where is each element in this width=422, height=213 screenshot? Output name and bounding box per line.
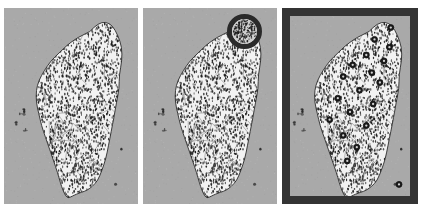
highlight-circle-northern-taiwan[interactable] (227, 14, 262, 49)
panel-a-map-canvas (4, 8, 138, 204)
map-panel-b[interactable] (143, 8, 277, 204)
map-panel-c[interactable] (282, 8, 418, 204)
panel-c-map-canvas (282, 8, 418, 204)
highlight-circle-stipple (232, 19, 257, 44)
map-panel-a[interactable] (4, 8, 138, 204)
three-panel-map-figure (0, 0, 422, 213)
